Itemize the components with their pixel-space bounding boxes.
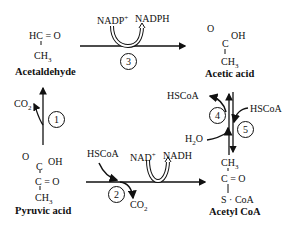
acetyl-ch3: CH3 — [221, 157, 238, 173]
acetic-oh: OH — [231, 30, 245, 41]
pyruvic-c1: C — [36, 161, 43, 172]
acetyl-scoa: S · CoA — [221, 194, 254, 205]
pyruvic-acid-label: Pyruvic acid — [15, 205, 71, 216]
co2-label-r1: CO2 — [14, 98, 31, 114]
acetic-acid-label: Acetic acid — [205, 68, 254, 79]
hscoa-product-r4: HSCoA — [167, 90, 199, 101]
pyruvic-c2: C = O — [35, 176, 60, 187]
co2-label-r2: CO2 — [130, 199, 147, 215]
acetic-c: C — [222, 38, 229, 49]
acetyl-coa-label: Acetyl CoA — [209, 206, 261, 217]
nadh-label: NADH — [163, 150, 192, 161]
pyruvic-o: O — [22, 151, 29, 162]
nadp-plus-label: NADP+ — [97, 13, 128, 26]
nadph-label: NADPH — [135, 13, 169, 24]
acetyl-co: C = O — [221, 173, 246, 184]
reaction-1-badge: 1 — [48, 111, 65, 128]
acetaldehyde-line1: HC = O — [29, 30, 61, 41]
reaction-2-badge: 2 — [108, 186, 125, 203]
reaction-3-badge: 3 — [120, 53, 137, 70]
nad-plus-label: NAD+ — [130, 150, 156, 163]
hscoa-reactant-r5: HSCoA — [250, 103, 282, 114]
acetaldehyde-label: Acetaldehyde — [15, 66, 76, 77]
water-label: H2O — [185, 133, 203, 149]
reaction-4-badge: 4 — [209, 107, 226, 124]
pyruvic-oh: OH — [48, 156, 62, 167]
acetic-o: O — [207, 23, 214, 34]
reaction-5-badge: 5 — [237, 121, 254, 138]
hscoa-reactant-r2: HSCoA — [87, 148, 119, 159]
acetaldehyde-ch3: CH3 — [34, 50, 51, 66]
